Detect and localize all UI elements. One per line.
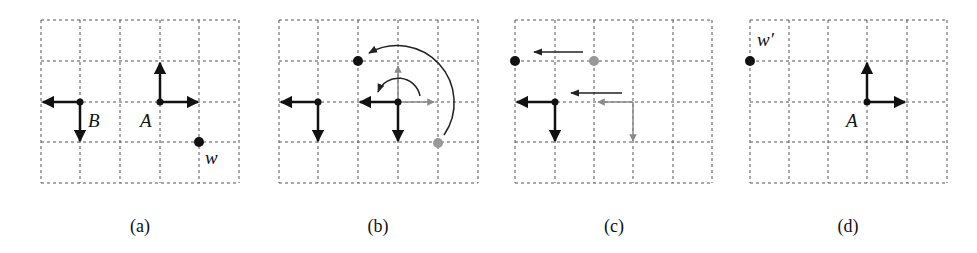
point-w-original-gray	[433, 138, 443, 148]
point-w-translated	[510, 56, 520, 66]
label-w: w	[205, 147, 218, 168]
point-w-prime	[745, 56, 755, 66]
frame-b	[43, 99, 84, 142]
frame-a	[157, 63, 199, 106]
frame-a-pretranslation-gray	[598, 102, 633, 141]
frame-a-rotated	[360, 99, 402, 142]
caption-b: (b)	[368, 216, 389, 237]
label-a: A	[138, 110, 152, 131]
label-w-prime: w′	[757, 29, 775, 50]
frame-b	[281, 99, 322, 142]
label-b: B	[88, 110, 100, 131]
frame-a	[864, 63, 906, 106]
point-w-rotated	[353, 56, 363, 66]
caption-a: (a)	[130, 216, 150, 237]
grid-d	[750, 20, 947, 183]
caption-c: (c)	[604, 216, 624, 237]
panel-c: (c)	[510, 20, 712, 237]
rotation-arc-small	[378, 78, 420, 96]
frame-a-original-gray	[398, 66, 434, 102]
rotation-arc-large	[369, 46, 454, 135]
point-w-pretranslation-gray	[589, 56, 599, 66]
caption-d: (d)	[838, 216, 859, 237]
panel-d: A w′ (d)	[745, 20, 947, 237]
panel-a: B A w (a)	[41, 20, 239, 237]
point-w	[194, 137, 204, 147]
panel-b: (b)	[279, 20, 478, 237]
frame-b	[517, 99, 559, 142]
figure-canvas: B A w (a)	[0, 0, 977, 253]
label-a: A	[844, 110, 858, 131]
